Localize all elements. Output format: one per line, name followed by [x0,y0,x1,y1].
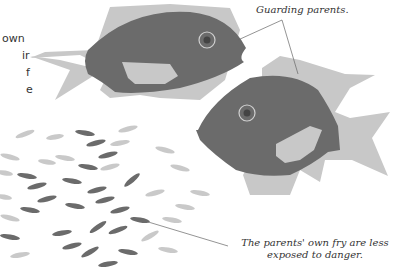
illustration: own ir f e [0,0,398,272]
fry-caption-line-2: exposed to danger. [236,249,394,261]
guarding-parents-caption: Guarding parents. [256,4,349,16]
fry-caption-line-1: The parents' own fry are less [236,237,394,249]
parent-fish-upper [30,4,246,100]
fish-artwork [0,0,398,272]
fry-school [0,124,210,268]
fry-caption: The parents' own fry are less exposed to… [236,237,394,261]
